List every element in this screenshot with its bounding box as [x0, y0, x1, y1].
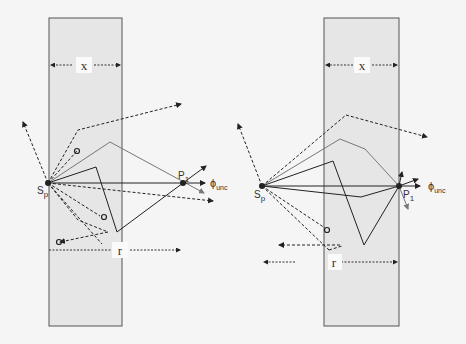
right-range-label: r [332, 255, 337, 270]
left-panel: x [23, 18, 228, 326]
right-detector-point [396, 183, 402, 189]
right-flux-label: ϕunc [428, 180, 446, 194]
diagram-canvas: x [0, 0, 466, 344]
left-range-label: r [118, 243, 123, 258]
right-source-label: Sp [254, 189, 266, 203]
left-detector-label: P1 [178, 170, 190, 184]
left-source-label: Sp [37, 185, 49, 199]
left-slab-label: x [81, 58, 88, 73]
figure: x [0, 0, 466, 344]
right-slab-label: x [359, 58, 366, 73]
left-flux-label: ϕunc [210, 177, 228, 191]
left-source-point [45, 180, 51, 186]
right-panel: x r Sp [238, 18, 446, 326]
